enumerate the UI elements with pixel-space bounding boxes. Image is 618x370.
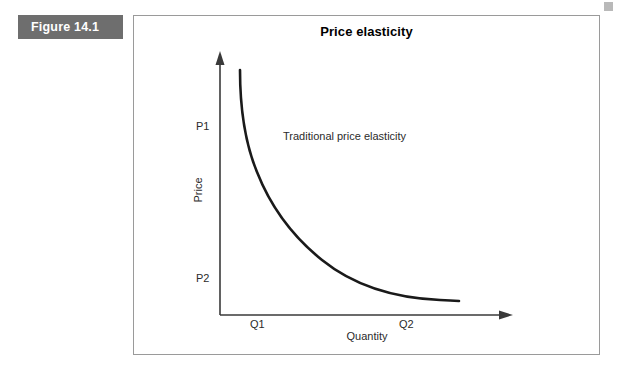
x-axis-arrowhead — [499, 311, 513, 320]
demand-curve — [240, 70, 459, 301]
y-axis-title: Price — [192, 170, 204, 210]
x-axis-title: Quantity — [337, 330, 397, 342]
x-tick-label-q2: Q2 — [399, 318, 414, 330]
figure-number-label: Figure 14.1 — [18, 20, 99, 34]
y-axis-arrowhead — [216, 51, 225, 65]
figure-number-tab: Figure 14.1 — [18, 15, 123, 39]
x-tick-label-q1: Q1 — [250, 318, 265, 330]
y-tick-label-p2: P2 — [196, 272, 209, 284]
figure-screenshot: Figure 14.1 Price elasticity P1 P2 Q1 Q2… — [0, 0, 618, 370]
curve-annotation: Traditional price elasticity — [283, 130, 406, 142]
scan-artifact-speck — [604, 2, 613, 11]
y-tick-label-p1: P1 — [196, 120, 209, 132]
